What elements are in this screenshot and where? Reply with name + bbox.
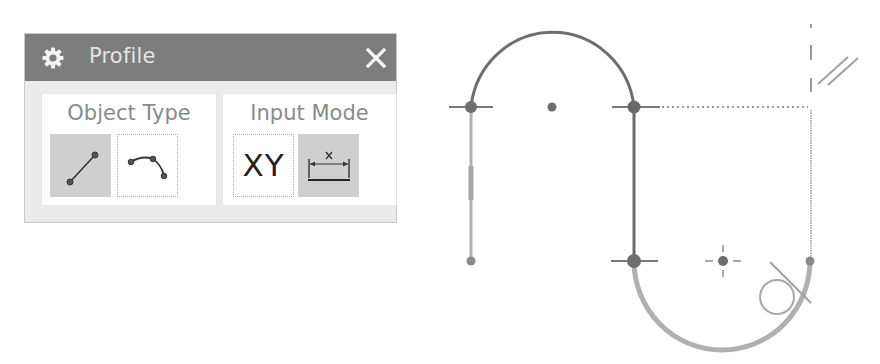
right-top-endpoint[interactable] bbox=[612, 101, 660, 114]
bottom-arc-center-point[interactable] bbox=[705, 245, 741, 277]
top-arc[interactable] bbox=[471, 32, 634, 107]
left-top-endpoint[interactable] bbox=[449, 101, 493, 113]
cursor-endpoint[interactable] bbox=[806, 257, 815, 266]
middle-bottom-endpoint[interactable] bbox=[611, 254, 658, 268]
sketch-stage: Profile Object Type bbox=[0, 0, 880, 364]
top-arc-center-point[interactable] bbox=[548, 103, 557, 112]
parallel-icon bbox=[818, 57, 858, 85]
sketch-canvas[interactable] bbox=[0, 0, 880, 364]
vertical-constraint-icon bbox=[469, 166, 474, 200]
left-bottom-endpoint[interactable] bbox=[467, 257, 476, 266]
